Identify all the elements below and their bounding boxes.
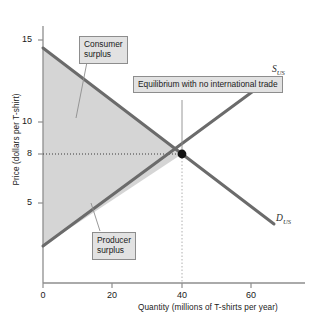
- chart-plot-area: [0, 0, 309, 321]
- producer-surplus-callout: Producer surplus: [92, 232, 136, 260]
- equilibrium-callout: Equilibrium with no international trade: [133, 76, 283, 93]
- y-tick-label-10: 10: [10, 116, 32, 126]
- demand-curve-label-subscript: US: [283, 218, 291, 225]
- demand-curve-label: DUS: [276, 213, 291, 225]
- demand-curve-label-letter: D: [276, 213, 283, 223]
- figure-supply-demand-chart: Price (dollars per T-shirt) Quantity (mi…: [0, 0, 309, 321]
- x-tick-label-40: 40: [171, 290, 193, 300]
- bottom-caption-strip: [6, 312, 306, 321]
- x-tick-label-60: 60: [240, 290, 262, 300]
- consumer-surplus-callout: Consumer surplus: [79, 36, 128, 64]
- y-tick-label-5: 5: [10, 197, 32, 207]
- y-tick-label-15: 15: [10, 34, 32, 44]
- y-tick-label-8: 8: [10, 148, 32, 158]
- equilibrium-point-marker: [178, 150, 187, 159]
- y-axis-title: Price (dollars per T-shirt): [12, 80, 21, 200]
- supply-curve-label: SUS: [272, 64, 285, 76]
- x-axis-title: Quantity (millions of T-shirts per year): [138, 303, 278, 312]
- x-tick-label-0: 0: [32, 290, 54, 300]
- x-tick-label-20: 20: [101, 290, 123, 300]
- supply-curve-label-subscript: US: [277, 69, 285, 76]
